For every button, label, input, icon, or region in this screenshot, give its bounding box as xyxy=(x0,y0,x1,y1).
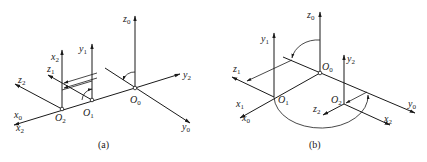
figure-b: z0 y1 y2 z1 x1 x0 z2 x2 y0 O0 O1 O2 (b) xyxy=(232,9,416,151)
caption-a: (a) xyxy=(98,139,109,151)
label-x2-b: x2 xyxy=(383,113,392,126)
origin-o1-a xyxy=(90,98,94,102)
label-y1-a: y1 xyxy=(78,43,87,56)
label-o2-b: O2 xyxy=(331,94,342,107)
label-z0-a: z0 xyxy=(122,13,131,26)
label-z1-a: z1 xyxy=(46,63,55,76)
origin-o2-a xyxy=(60,107,64,111)
axis-y0-b xyxy=(283,57,415,113)
rotation-arc-z0-a xyxy=(123,72,135,80)
label-o2-a: O2 xyxy=(55,112,66,125)
axis-y2-a xyxy=(135,74,180,88)
label-o1-a: O1 xyxy=(83,107,94,120)
label-y1-b: y1 xyxy=(260,33,269,46)
label-z2-a: z2 xyxy=(17,74,26,87)
label-x0-b: x0 xyxy=(241,112,250,125)
coordinate-frames-diagram: z0 y0 y2 y1 z1 x2 z2 x0 x2 O0 O1 O2 (a) xyxy=(0,0,427,162)
label-x0-a: x0 xyxy=(13,109,22,122)
axis-y0-a xyxy=(105,68,190,123)
label-x2-top-a: x2 xyxy=(50,51,59,64)
axis-z2-a xyxy=(15,84,62,109)
offset-arrow-o2-b xyxy=(346,92,367,103)
caption-b: (b) xyxy=(309,139,321,151)
label-y2-a: y2 xyxy=(182,69,191,82)
label-o0-a: O0 xyxy=(130,94,141,107)
label-z1-b: z1 xyxy=(232,63,241,76)
rotation-arc-z0-b xyxy=(292,40,320,58)
origin-o0-a xyxy=(133,86,137,90)
axis-z1-b xyxy=(232,77,274,97)
label-y2-b: y2 xyxy=(346,53,355,66)
label-z2-b: z2 xyxy=(312,103,321,116)
figure-a: z0 y0 y2 y1 z1 x2 z2 x0 x2 O0 O1 O2 (a) xyxy=(13,13,191,151)
label-z0-b: z0 xyxy=(306,9,315,22)
label-x1-b: x1 xyxy=(235,98,244,111)
rotation-arc-o1-a xyxy=(82,89,92,100)
label-y0-b: y0 xyxy=(407,98,416,111)
label-o1-b: O1 xyxy=(278,94,289,107)
offset-arrow-b xyxy=(247,60,292,81)
label-x2-bottom-a: x2 xyxy=(15,122,24,135)
label-o0-b: O0 xyxy=(322,61,333,74)
